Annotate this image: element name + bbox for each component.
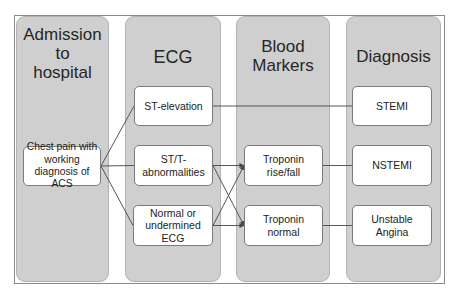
column-title-ecg: ECG	[126, 47, 220, 67]
box-chest-pain: Chest pain with working diagnosis of ACS	[23, 146, 101, 186]
title-line: Blood	[237, 37, 329, 56]
box-troponin-rise-fall: Troponin rise/fall	[244, 145, 323, 186]
title-line: to	[17, 44, 108, 63]
box-label: Troponin rise/fall	[254, 153, 314, 178]
box-label: NSTEMI	[372, 159, 412, 172]
box-stemi: STEMI	[352, 86, 432, 126]
title-line: Admission	[17, 25, 108, 44]
box-label: Unstable Angina	[355, 213, 429, 238]
column-title-admission: Admission to hospital	[17, 25, 108, 82]
box-label: Normal or undermined ECG	[136, 207, 210, 245]
title-line: ECG	[126, 47, 220, 67]
title-line: Diagnosis	[347, 47, 440, 66]
box-label: Troponin normal	[247, 213, 320, 238]
box-normal-ecg: Normal or undermined ECG	[133, 205, 213, 246]
column-title-diagnosis: Diagnosis	[347, 47, 440, 66]
column-title-blood-markers: Blood Markers	[237, 37, 329, 75]
box-nstemi: NSTEMI	[352, 145, 432, 186]
box-label: Chest pain with working diagnosis of ACS	[26, 141, 98, 190]
box-st-t-abnormalities: ST/T-abnormalities	[134, 145, 213, 186]
title-line: hospital	[17, 63, 108, 82]
box-troponin-normal: Troponin normal	[244, 205, 323, 246]
box-unstable-angina: Unstable Angina	[352, 205, 432, 246]
box-st-elevation: ST-elevation	[134, 86, 213, 126]
box-label: ST/T-abnormalities	[139, 153, 209, 178]
box-label: ST-elevation	[144, 100, 202, 113]
box-label: STEMI	[376, 100, 408, 113]
title-line: Markers	[237, 56, 329, 75]
